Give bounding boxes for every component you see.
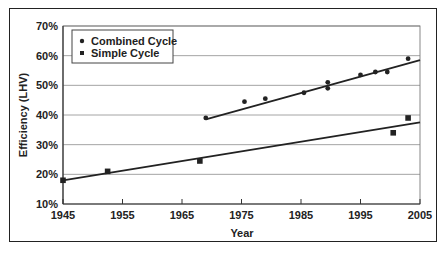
data-point-square (405, 115, 411, 121)
data-points (60, 56, 411, 183)
data-point-circle (325, 86, 330, 91)
x-axis-ticks: 1945195519651975198519952005 (51, 199, 432, 221)
legend-label-simple: Simple Cycle (91, 47, 159, 59)
y-axis-ticks: 10%20%30%40%50%60%70% (36, 20, 58, 210)
x-tick-label: 2005 (408, 209, 432, 221)
data-point-circle (406, 56, 411, 61)
data-point-circle (302, 90, 307, 95)
x-tick-label: 1995 (348, 209, 372, 221)
trendline-simple-cycle (63, 122, 420, 180)
x-tick-label: 1955 (110, 209, 134, 221)
data-point-circle (385, 70, 390, 75)
chart-area: 10%20%30%40%50%60%70% 194519551965197519… (0, 0, 447, 255)
data-point-circle (242, 99, 247, 104)
y-tick-label: 60% (36, 50, 58, 62)
legend-label-combined: Combined Cycle (91, 35, 177, 47)
y-tick-label: 20% (36, 168, 58, 180)
legend: Combined Cycle Simple Cycle (72, 30, 177, 63)
data-point-circle (358, 73, 363, 78)
y-axis-title: Efficiency (LHV) (17, 72, 29, 157)
data-point-circle (263, 96, 268, 101)
data-point-circle (373, 70, 378, 75)
trendline-combined-cycle (206, 60, 420, 119)
data-point-circle (203, 116, 208, 121)
x-tick-label: 1965 (170, 209, 194, 221)
x-tick-label: 1945 (51, 209, 75, 221)
data-point-square (197, 158, 203, 164)
y-tick-label: 70% (36, 20, 58, 32)
y-tick-label: 50% (36, 79, 58, 91)
legend-circle-icon (80, 39, 84, 43)
data-point-circle (325, 80, 330, 85)
y-tick-label: 30% (36, 139, 58, 151)
y-tick-label: 40% (36, 109, 58, 121)
data-point-square (60, 177, 66, 183)
x-axis-title: Year (230, 227, 254, 239)
x-tick-label: 1985 (289, 209, 313, 221)
x-tick-label: 1975 (229, 209, 253, 221)
trendlines (63, 60, 420, 180)
data-point-square (105, 169, 111, 175)
legend-square-icon (80, 51, 84, 55)
data-point-square (390, 130, 396, 136)
